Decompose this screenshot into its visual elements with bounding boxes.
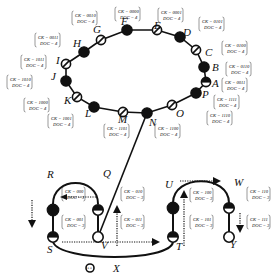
annotation-w: CK = 110DOC = 3	[247, 187, 270, 201]
arrowhead-v-up	[113, 205, 121, 213]
node-label: U	[165, 178, 174, 190]
annotation-c: CK = 0100DOC = 4	[222, 41, 247, 55]
paren-left	[222, 41, 224, 55]
ring-path	[66, 30, 206, 113]
cube-node-y: Y	[224, 232, 238, 250]
ck-value: CK = 1011	[24, 57, 44, 62]
ring-node-b: B	[199, 61, 219, 73]
doc-value: DOC = 3	[125, 195, 144, 200]
annotation-s: CK = 001DOC = 3	[62, 215, 85, 229]
annotation-a: CK = 0011DOC = 4	[222, 78, 247, 92]
cube-node-v: V	[93, 232, 109, 251]
ck-value: CK = 100	[193, 190, 212, 195]
paren-right	[45, 55, 47, 69]
paren-left	[226, 62, 228, 76]
paren-left	[104, 124, 106, 138]
doc-value: DOC = 3	[194, 196, 213, 201]
doc-value: DOC = 4	[162, 16, 181, 21]
ck-value: CK = 1001	[51, 116, 72, 121]
paren-right	[231, 111, 233, 125]
annotation-d: CK = 0101DOC = 4	[199, 17, 224, 31]
paren-left	[247, 187, 249, 201]
paren-right	[179, 124, 181, 138]
doc-value: DOC = 4	[226, 49, 245, 54]
ring-node-m: M	[117, 107, 128, 125]
paren-left	[121, 215, 123, 229]
paren-right	[48, 98, 50, 112]
node-label: W	[234, 176, 244, 188]
paren-right	[238, 95, 240, 109]
cube-node-t: T	[168, 232, 183, 252]
ck-value: CK = 0011	[38, 35, 58, 40]
annotation-k: CK = 1000DOC = 4	[24, 98, 49, 112]
node-label: E	[153, 19, 161, 31]
edge-r-q-arc	[53, 183, 98, 204]
annotation-v: CK = 011DOC = 3	[121, 215, 144, 229]
annotation-l: CK = 1001DOC = 4	[48, 114, 73, 128]
node-label: R	[46, 168, 54, 180]
node-label: O	[176, 107, 184, 119]
ck-value: CK = 0110	[229, 64, 250, 69]
ring-node-d: D	[175, 26, 191, 42]
node-label: D	[182, 26, 191, 38]
doc-value: DOC = 3	[125, 223, 144, 228]
doc-value: DOC = 4	[203, 25, 222, 30]
node-label: I	[55, 54, 61, 66]
annotation-n: CK = 1100DOC = 4	[155, 124, 180, 138]
annotation-q: CK = 010DOC = 3	[121, 187, 144, 201]
paren-left	[35, 33, 37, 47]
isolated-node-inner: ε.ε	[88, 266, 93, 270]
doc-value: DOC = 3	[66, 195, 85, 200]
paren-right	[59, 33, 61, 47]
paren-right	[246, 78, 248, 92]
node-label: Q	[103, 167, 111, 179]
ck-value: CK = 0000	[118, 9, 139, 14]
doc-value: DOC = 4	[159, 132, 178, 137]
ck-value: CK = 1000	[27, 100, 48, 105]
paren-left	[207, 111, 209, 125]
annotation-e: CK = 0001DOC = 4	[158, 8, 183, 22]
node-label: T	[176, 240, 183, 252]
annotation-f: CK = 0000DOC = 4	[115, 7, 140, 21]
annotation-y: CK = 111DOC = 3	[247, 215, 270, 229]
paren-left	[72, 11, 74, 25]
node-label: X	[112, 262, 121, 274]
node-label: V	[101, 239, 109, 251]
filled-node-icon	[199, 62, 209, 72]
ring-node-o: O	[167, 100, 184, 119]
annotation-i: CK = 1011DOC = 4	[21, 55, 46, 69]
paren-right	[182, 8, 184, 22]
ck-value: CK = 1010	[10, 77, 31, 82]
node-label: H	[72, 37, 82, 49]
paren-left	[222, 78, 224, 92]
doc-value: DOC = 4	[226, 86, 245, 91]
ck-value: CK = 0101	[202, 19, 223, 24]
arrowhead-q-to-r	[60, 194, 67, 200]
doc-value: DOC = 3	[251, 195, 270, 200]
filled-node-icon	[61, 76, 71, 86]
paren-right	[139, 7, 141, 21]
annotation-g: CK = 0010DOC = 4	[72, 11, 97, 25]
doc-value: DOC = 3	[194, 223, 213, 228]
paren-left	[115, 7, 117, 21]
ck-value: CK = 1101	[107, 126, 127, 131]
paren-left	[121, 187, 123, 201]
node-label: C	[205, 46, 213, 58]
annotation-h: CK = 0011DOC = 4	[35, 33, 60, 47]
paren-left	[190, 188, 192, 202]
doc-value: DOC = 4	[119, 15, 138, 20]
annotation-u: CK = 100DOC = 3	[190, 188, 213, 202]
ck-value: CK = 110	[250, 189, 269, 194]
ck-value: CK = 0011	[225, 80, 245, 85]
ck-value: CK = 1110	[210, 113, 231, 118]
doc-value: DOC = 3	[66, 223, 85, 228]
ck-value: CK = 111	[250, 217, 268, 222]
paren-left	[24, 98, 26, 112]
node-label: B	[212, 61, 219, 73]
paren-left	[48, 114, 50, 128]
cube-node-u: U	[165, 178, 179, 214]
annotation-j: CK = 1010DOC = 4	[7, 75, 32, 89]
ring-node-l: L	[84, 102, 99, 119]
cube-node-q: Q	[93, 167, 111, 215]
paren-left	[7, 75, 9, 89]
